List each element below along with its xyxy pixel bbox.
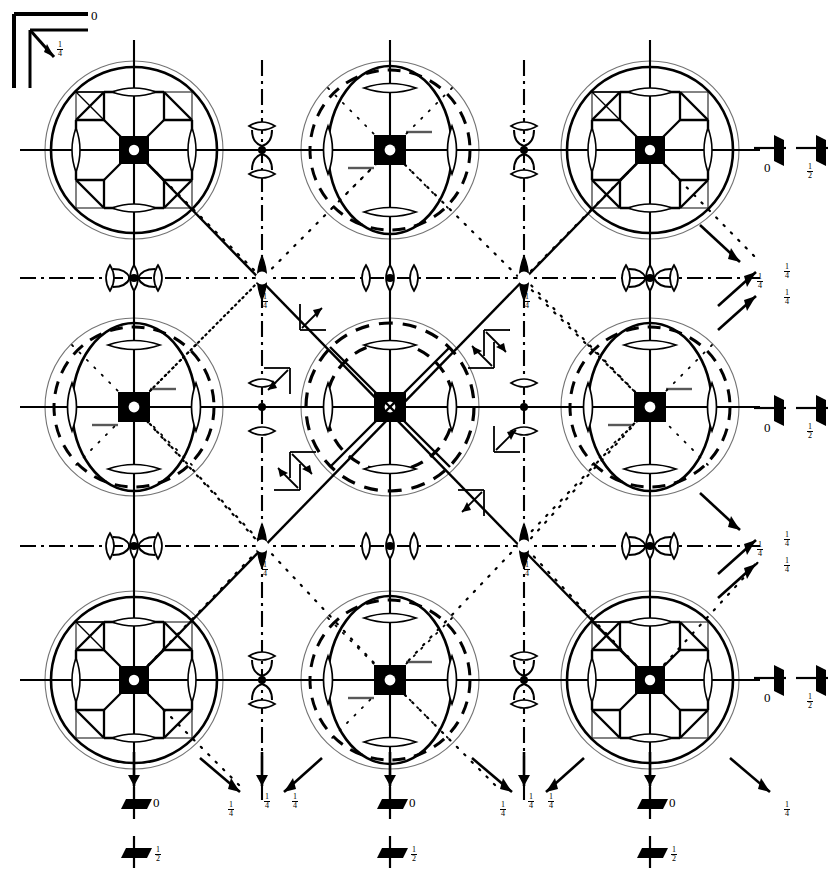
quarter-label-interior-i2: 14 (524, 292, 530, 310)
h-d: 2 (155, 855, 161, 863)
quarter-denominator: 4 (784, 298, 790, 306)
bottom-col2-zero-label: 0 (409, 795, 416, 811)
quarter-denominator: 4 (228, 810, 234, 818)
quarter-label-right-r4: 14 (757, 540, 763, 558)
quarter-label-bottom-b5: 14 (528, 792, 534, 810)
right-row2-half-label: 12 (807, 422, 813, 440)
h-d: 2 (671, 855, 677, 863)
h-d: 2 (807, 432, 813, 440)
quarter-denominator: 4 (524, 570, 530, 578)
quarter-label-right-r5: 14 (784, 530, 790, 548)
quarter-label-bottom-b1: 14 (228, 800, 234, 818)
right-row1-half-label: 12 (807, 162, 813, 180)
right-row3-half-label: 12 (807, 692, 813, 710)
quarter-label-bottom-b7: 14 (784, 800, 790, 818)
h-d: 2 (807, 702, 813, 710)
quarter-denominator: 4 (784, 566, 790, 574)
quarter-denominator: 4 (528, 802, 534, 810)
quarter-label-right-r3: 14 (784, 288, 790, 306)
bottom-col3-half-label: 12 (671, 845, 677, 863)
right-row3-zero-label: 0 (764, 690, 771, 706)
quarter-denominator: 4 (784, 540, 790, 548)
quarter-label-right-r6: 14 (784, 556, 790, 574)
quarter-denominator: 4 (264, 802, 270, 810)
quarter-label-right-r1: 14 (757, 272, 763, 290)
bottom-col1-zero-label: 0 (153, 795, 160, 811)
quarter-denominator: 4 (548, 802, 554, 810)
quarter-label-bottom-b4: 14 (500, 800, 506, 818)
quarter-label-bottom-b2: 14 (264, 792, 270, 810)
quarter-label-bottom-b6: 14 (548, 792, 554, 810)
quarter-denominator: 4 (292, 802, 298, 810)
quarter-label-interior-i1: 14 (262, 292, 268, 310)
h-d: 2 (807, 172, 813, 180)
bottom-col1-half-label: 12 (155, 845, 161, 863)
quarter-denominator: 4 (757, 550, 763, 558)
quarter-denominator: 4 (262, 302, 268, 310)
quarter-label-bottom-b3: 14 (292, 792, 298, 810)
quarter-label-right-r2: 14 (784, 262, 790, 280)
diagram-canvas (0, 0, 839, 882)
bottom-col2-half-label: 12 (411, 845, 417, 863)
quarter-denominator: 4 (500, 810, 506, 818)
right-row2-zero-label: 0 (764, 420, 771, 436)
h-d: 2 (411, 855, 417, 863)
bottom-col3-zero-label: 0 (669, 795, 676, 811)
quarter-denominator: 4 (784, 810, 790, 818)
axis-quarter-label: 14 (57, 40, 63, 58)
space-group-diagram: 0 14 0 12 0 12 0 12 0 12 0 12 0 12 14141… (0, 0, 839, 882)
right-row1-zero-label: 0 (764, 160, 771, 176)
quarter-denominator: 4 (784, 272, 790, 280)
origin-label: 0 (91, 8, 98, 24)
quarter-label-interior-i3: 14 (262, 560, 268, 578)
quarter-label-interior-i4: 14 (524, 560, 530, 578)
quarter-denominator: 4 (262, 570, 268, 578)
quarter-denominator: 4 (757, 282, 763, 290)
quarter-denominator: 4 (524, 302, 530, 310)
axis-quarter-denominator: 4 (57, 50, 63, 58)
